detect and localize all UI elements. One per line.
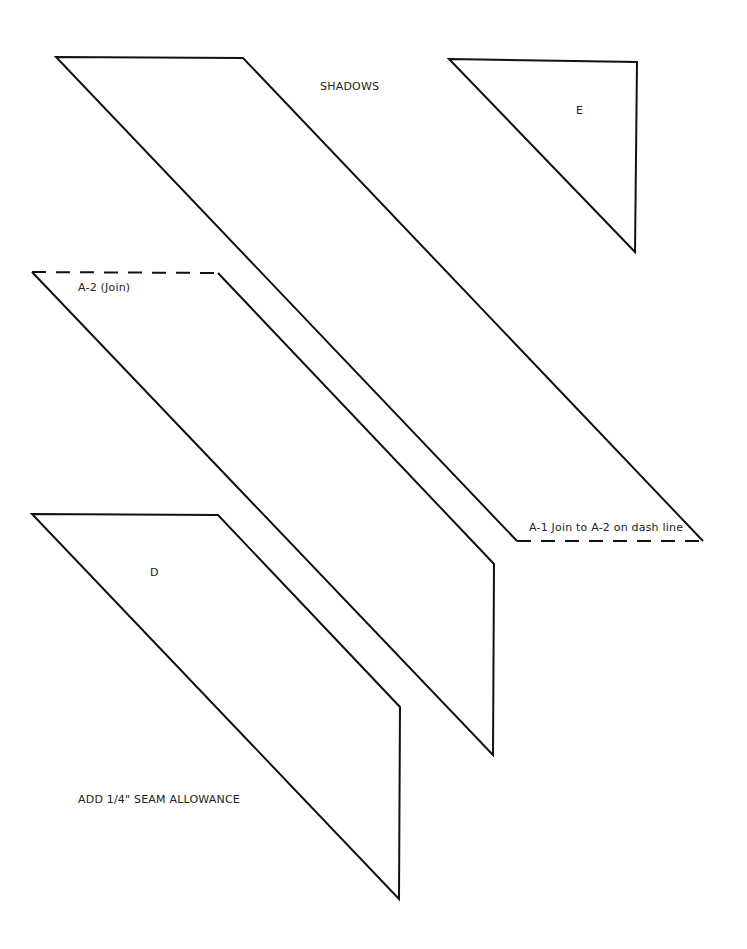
seam-allowance-note: ADD 1/4" SEAM ALLOWANCE (78, 793, 240, 806)
piece-d-label: D (150, 566, 159, 579)
a2-dash-line (32, 272, 218, 273)
piece-a2-label: A-2 (Join) (78, 281, 130, 294)
piece-d-outline (32, 514, 400, 899)
page-title: SHADOWS (320, 80, 379, 93)
piece-a1-label: A-1 Join to A-2 on dash line (529, 521, 683, 534)
piece-e-outline (449, 59, 637, 252)
pattern-sheet (0, 0, 747, 949)
piece-a1-outline (56, 57, 703, 541)
piece-e-label: E (576, 104, 583, 117)
